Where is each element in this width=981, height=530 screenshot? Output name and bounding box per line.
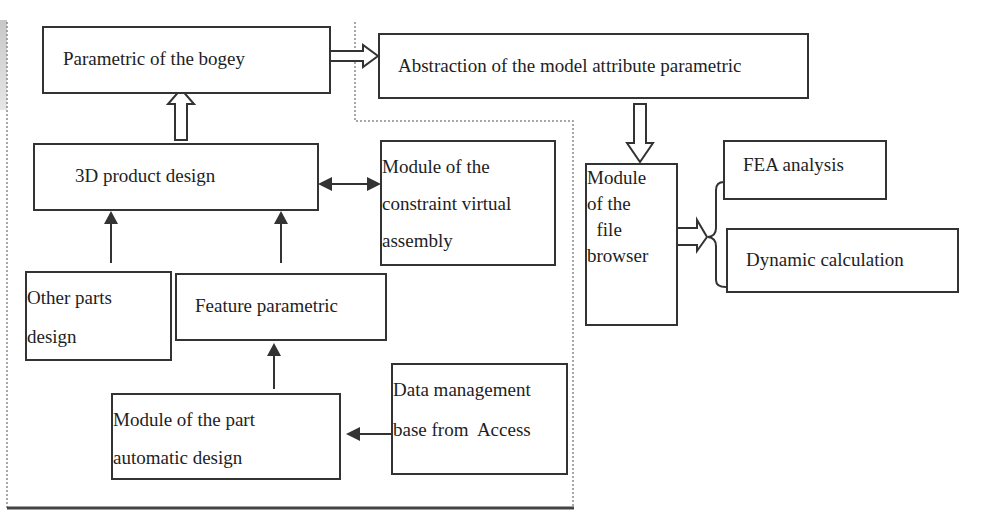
node-label-line: Data management: [393, 371, 531, 409]
node-label-line: Module of the: [382, 148, 490, 186]
node-label: Parametric of the bogey: [63, 48, 245, 70]
hollow-arrow-down-icon: [627, 104, 653, 162]
node-3d-product-design: 3D product design: [33, 143, 319, 211]
node-part-automatic-design: Module of the part automatic design: [111, 393, 341, 480]
node-label-line: design: [27, 318, 77, 356]
node-label: FEA analysis: [743, 154, 844, 176]
node-constraint-virtual-assembly: Module of the constraint virtual assembl…: [380, 140, 556, 266]
node-label: Abstraction of the model attribute param…: [398, 55, 741, 77]
node-label-line: browser: [587, 243, 648, 269]
arrowhead-up-icon: [104, 211, 118, 224]
node-label-line: Module of the part: [113, 401, 255, 439]
arrowhead-left-icon: [318, 177, 332, 191]
arrowhead-up-icon: [274, 211, 288, 224]
node-label-line: of the: [587, 191, 631, 217]
node-label: Dynamic calculation: [746, 249, 904, 271]
node-label-line: base from Access: [393, 411, 531, 449]
node-other-parts-design: Other parts design: [25, 271, 172, 361]
arrowhead-left-icon: [346, 427, 360, 441]
node-data-management-access: Data management base from Access: [391, 363, 568, 475]
arrowhead-up-icon: [267, 343, 281, 356]
hollow-arrow-right-icon: [330, 45, 378, 67]
arrowhead-right-icon: [367, 177, 381, 191]
node-abstraction-model-attribute: Abstraction of the model attribute param…: [378, 33, 809, 99]
node-label: Feature parametric: [195, 295, 338, 317]
node-feature-parametric: Feature parametric: [175, 273, 387, 341]
node-dynamic-calculation: Dynamic calculation: [726, 228, 959, 293]
node-label-line: assembly: [382, 222, 453, 260]
node-label-line: Module: [587, 165, 646, 191]
node-label-line: constraint virtual: [382, 185, 511, 223]
hollow-arrow-up-icon: [168, 89, 194, 140]
node-label-line: automatic design: [113, 439, 242, 477]
node-label: 3D product design: [75, 165, 215, 187]
node-fea-analysis: FEA analysis: [723, 140, 887, 200]
node-parametric-bogey: Parametric of the bogey: [42, 26, 331, 94]
node-label-line: Other parts: [27, 279, 112, 317]
hollow-arrow-right-to-brace-icon: [677, 220, 707, 251]
node-file-browser: Module of the file browser: [585, 163, 678, 326]
node-label-line: file: [587, 217, 622, 243]
